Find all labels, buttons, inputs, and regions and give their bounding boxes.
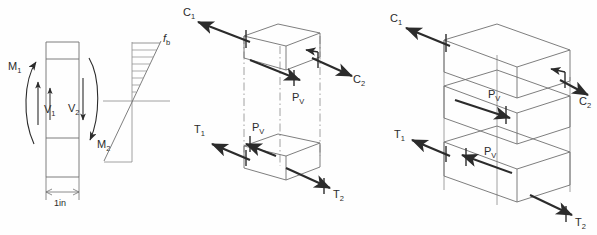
diagram-canvas: M1 V1 V2 M2 1in fb — [0, 0, 597, 235]
label-dimension-1in: 1in — [54, 198, 66, 208]
